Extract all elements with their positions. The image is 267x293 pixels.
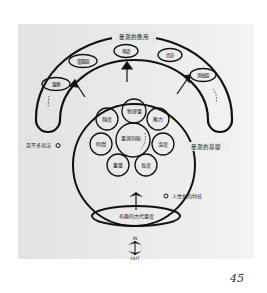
right-note: 人性化的特技 <box>172 193 202 200</box>
base-circle <box>73 104 195 226</box>
ancient-measures-label: 有趣的古代量度 <box>119 213 154 220</box>
base-label: 量測的基礎 <box>191 143 221 151</box>
svg-text:導遊: 導遊 <box>122 48 131 55</box>
svg-text:溫度: 溫度 <box>158 141 168 148</box>
svg-text:OUT: OUT <box>130 256 140 261</box>
svg-text:重量: 重量 <box>113 162 123 169</box>
svg-text:色彩: 色彩 <box>166 52 175 59</box>
left-note: 且不多見法 <box>26 142 51 149</box>
in-out-icon: IN OUT <box>128 236 142 261</box>
svg-text:電腦圖: 電腦圖 <box>77 58 90 65</box>
page-number: 45 <box>230 272 244 285</box>
center-label: 量測刻痕 <box>121 135 141 142</box>
svg-text:壓力: 壓力 <box>153 116 163 123</box>
svg-text:測繪圖: 測繪圖 <box>197 72 210 79</box>
svg-text:時間: 時間 <box>96 141 106 148</box>
application-label: 量測的應用 <box>119 33 149 41</box>
svg-text:物理量: 物理量 <box>127 108 142 115</box>
measurement-diagram: 量測的應用 醫療 電腦圖 導遊 色彩 測繪圖 量測的基礎 物理量 壓力 溫度 長… <box>0 0 267 293</box>
svg-text:頻度: 頻度 <box>102 116 112 123</box>
svg-text:IN: IN <box>133 236 138 241</box>
svg-text:醫療: 醫療 <box>52 81 61 88</box>
application-band <box>36 36 232 132</box>
svg-text:長度: 長度 <box>141 162 151 169</box>
